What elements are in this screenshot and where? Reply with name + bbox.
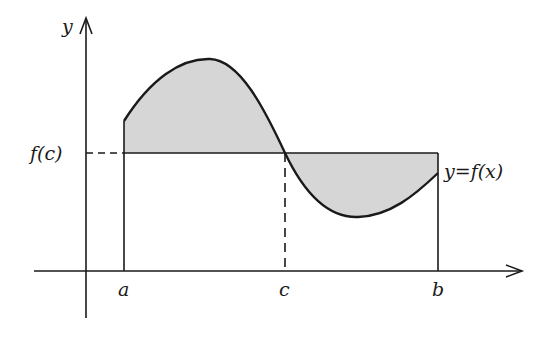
a-label: a xyxy=(118,278,129,300)
curve-label: y=f(x) xyxy=(443,160,503,182)
fc-label: f(c) xyxy=(28,142,63,164)
c-label: c xyxy=(279,278,290,300)
mean-value-diagram: y f(c) y=f(x) a c b xyxy=(0,0,533,339)
y-axis-label: y xyxy=(61,15,73,37)
shaded-region-below xyxy=(285,153,438,217)
b-label: b xyxy=(432,278,444,300)
